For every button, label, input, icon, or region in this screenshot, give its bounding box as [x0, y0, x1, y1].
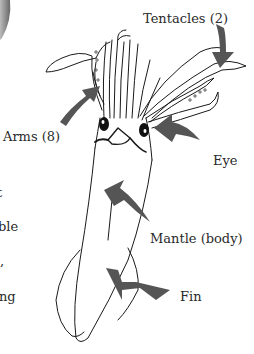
arrow-fin	[106, 268, 170, 300]
pointer-arrows	[60, 24, 234, 300]
text-fragment-4: ng	[0, 290, 16, 303]
squid-diagram: Tentacles (2) Arms (8) Eye Mantle (body)…	[0, 0, 254, 354]
eye-left	[99, 117, 109, 131]
text-fragment-1: t	[0, 186, 2, 199]
text-fragment-2: ble	[0, 220, 18, 233]
text-fragment-3: ,	[0, 254, 4, 267]
squid-illustration	[0, 0, 254, 354]
arrow-arms	[60, 86, 100, 126]
mantle-outline	[75, 148, 152, 342]
label-mantle: Mantle (body)	[150, 232, 243, 245]
label-tentacles: Tentacles (2)	[143, 12, 228, 25]
corner-arc-decoration	[0, 0, 10, 40]
label-arms: Arms (8)	[3, 130, 60, 143]
label-eye: Eye	[213, 154, 238, 167]
label-fin: Fin	[180, 290, 202, 303]
